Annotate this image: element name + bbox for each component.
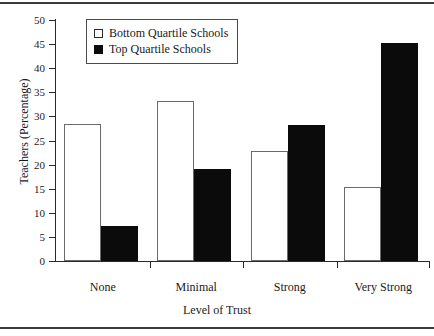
y-axis-tick <box>49 116 55 117</box>
y-axis-tick <box>49 141 55 142</box>
x-axis-category-label: Minimal <box>150 281 244 294</box>
legend-label: Top Quartile Schools <box>109 43 211 56</box>
y-axis-tick <box>49 44 55 45</box>
bottom-rule <box>0 327 434 329</box>
legend-label: Bottom Quartile Schools <box>109 27 228 40</box>
x-axis-tick <box>337 262 338 268</box>
x-axis-category-label: Very Strong <box>337 281 431 294</box>
legend-item-top-quartile: Top Quartile Schools <box>94 41 228 57</box>
x-axis-category-label: Strong <box>243 281 337 294</box>
figure: 05101520253035404550 NoneMinimalStrongVe… <box>0 0 434 336</box>
legend-item-bottom-quartile: Bottom Quartile Schools <box>94 25 228 41</box>
bar <box>101 226 138 261</box>
top-rule <box>0 2 434 4</box>
bar <box>381 43 418 261</box>
y-axis-tick <box>49 261 55 262</box>
y-axis-tick <box>49 20 55 21</box>
y-axis-tick <box>49 68 55 69</box>
y-axis-tick <box>49 237 55 238</box>
x-axis-category-label: None <box>56 281 150 294</box>
legend: Bottom Quartile Schools Top Quartile Sch… <box>86 19 238 64</box>
y-axis-tick-label: 50 <box>15 15 45 26</box>
y-axis-tick <box>49 165 55 166</box>
bar <box>251 151 288 261</box>
legend-swatch-filled-square-icon <box>94 45 103 54</box>
x-axis-title: Level of Trust <box>0 304 434 317</box>
y-axis-tick <box>49 92 55 93</box>
y-axis-title: Teachers (Percentage) <box>18 42 31 222</box>
y-axis-tick <box>49 189 55 190</box>
x-axis-tick <box>150 262 151 268</box>
x-axis-tick <box>243 262 244 268</box>
bar <box>157 101 194 261</box>
bar <box>288 125 325 261</box>
bar <box>344 187 381 261</box>
bar <box>194 169 231 261</box>
y-axis-tick-label: 5 <box>15 232 45 243</box>
x-axis-tick <box>429 262 430 268</box>
y-axis-tick <box>49 213 55 214</box>
legend-swatch-open-square-icon <box>94 29 103 38</box>
y-axis-tick-label: 0 <box>15 256 45 267</box>
bar <box>64 124 101 261</box>
